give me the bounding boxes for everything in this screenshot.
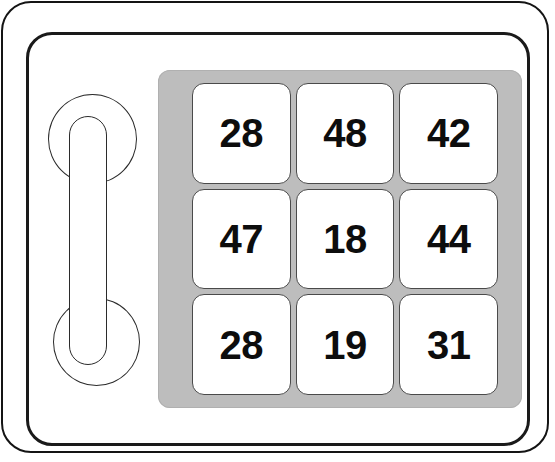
keypad-key[interactable]: 28 [192, 294, 291, 395]
keypad-key[interactable]: 31 [399, 294, 498, 395]
carry-handle[interactable] [45, 90, 145, 390]
keypad-key[interactable]: 28 [192, 83, 291, 184]
keypad-key-label: 44 [427, 219, 471, 259]
keypad-key[interactable]: 42 [399, 83, 498, 184]
keypad-key[interactable]: 18 [296, 189, 395, 290]
keypad-key[interactable]: 48 [296, 83, 395, 184]
keypad-key-label: 28 [220, 325, 264, 365]
keypad-key-label: 28 [220, 113, 264, 153]
keypad-key[interactable]: 44 [399, 189, 498, 290]
keypad-key[interactable]: 19 [296, 294, 395, 395]
keypad-grid: 28 48 42 47 18 44 28 19 [192, 83, 498, 395]
keypad-key-label: 42 [427, 113, 471, 153]
keypad-key[interactable]: 47 [192, 189, 291, 290]
device-stage: 28 48 42 47 18 44 28 19 [0, 0, 555, 462]
keypad-key-label: 18 [323, 219, 367, 259]
keypad-key-label: 31 [427, 325, 471, 365]
keypad-key-label: 47 [220, 219, 264, 259]
keypad-panel: 28 48 42 47 18 44 28 19 [158, 70, 522, 408]
keypad-key-label: 48 [323, 113, 367, 153]
handle-grip-bar[interactable] [69, 116, 107, 365]
keypad-key-label: 19 [323, 325, 367, 365]
